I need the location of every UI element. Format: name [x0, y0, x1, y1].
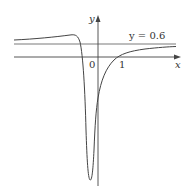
y-axis-arrow-icon [96, 15, 101, 22]
tick-label-1: 1 [119, 59, 125, 70]
graph: y x 0 1 y = 0.6 [0, 0, 189, 195]
x-axis-label: x [175, 59, 181, 70]
y-axis-label: y [88, 13, 95, 24]
asymptote-label: y = 0.6 [128, 30, 165, 41]
tick-label-0: 0 [89, 59, 95, 70]
